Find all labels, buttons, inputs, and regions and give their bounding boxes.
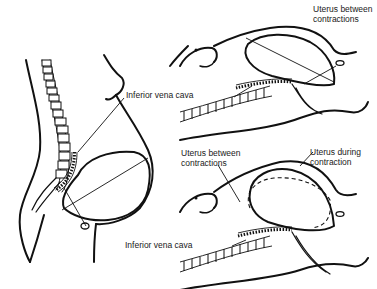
supine-between-figure: [180, 27, 368, 140]
ivc-bottom: [238, 229, 292, 236]
label-uterus-between-top: Uterus between contractions: [313, 4, 373, 24]
arm-bottom: [200, 208, 214, 213]
arm-outline: [170, 46, 188, 66]
thigh-outline: [94, 224, 96, 262]
ivc-leader-standing: [78, 98, 124, 152]
back-outline: [20, 60, 41, 262]
uterus-axis-top: [246, 38, 334, 82]
vertebrae: [42, 60, 70, 178]
spine-bottom: [180, 236, 272, 272]
supine-during-figure: [180, 152, 368, 289]
nipple-bottom: [195, 197, 198, 200]
cervix-top: [336, 61, 344, 66]
uterus-between-leader: [218, 165, 240, 202]
label-ivc-standing: Inferior vena cava: [126, 90, 194, 100]
label-ivc-bottom: Inferior vena cava: [125, 240, 193, 250]
arm-top: [200, 62, 214, 67]
abdomen-top-outline: [214, 27, 356, 54]
breast-top: [180, 48, 217, 66]
breast-outline: [104, 55, 124, 99]
nipple-top: [195, 49, 198, 52]
breast-bottom: [180, 194, 217, 212]
sacrum-top: [292, 84, 322, 114]
abdomen-outline: [96, 95, 153, 224]
sacrum: [32, 178, 60, 212]
label-uterus-during: Uterus during contraction: [310, 147, 361, 167]
cervix-bottom: [336, 212, 344, 217]
cervix-line-top: [304, 66, 336, 84]
label-uterus-between-bottom: Uterus between contractions: [181, 148, 241, 168]
ivc-top: [236, 81, 292, 88]
uterus-axis-standing: [62, 158, 148, 210]
leg-back-outline: [30, 215, 44, 262]
standing-figure: [20, 46, 188, 262]
